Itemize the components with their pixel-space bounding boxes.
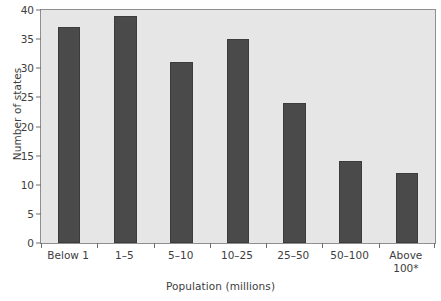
- y-tick-mark: [36, 97, 41, 98]
- x-tick-mark: [266, 243, 267, 248]
- bar: [114, 16, 137, 243]
- bar: [283, 103, 306, 243]
- bar: [396, 173, 419, 243]
- y-tick-mark: [36, 10, 41, 11]
- x-tick-label: 1–5: [115, 249, 134, 262]
- x-tick-label: 50–100: [330, 249, 369, 262]
- x-tick-label: 10–25: [221, 249, 253, 262]
- bar-chart: Number of states 0510152025303540 Below …: [0, 0, 441, 301]
- bar: [58, 27, 81, 243]
- bar: [227, 39, 250, 243]
- y-tick-mark: [36, 126, 41, 127]
- x-tick-mark: [210, 243, 211, 248]
- bar: [170, 62, 193, 243]
- x-tick-label: 25–50: [277, 249, 309, 262]
- x-tick-mark: [154, 243, 155, 248]
- y-tick-mark: [36, 184, 41, 185]
- x-tick-mark: [379, 243, 380, 248]
- plot-area: 0510152025303540: [40, 9, 436, 244]
- bar: [339, 161, 362, 243]
- y-tick-mark: [36, 68, 41, 69]
- x-tick-mark: [322, 243, 323, 248]
- x-tick-label: Below 1: [47, 249, 89, 262]
- x-tick-label: 5–10: [168, 249, 193, 262]
- x-tick-mark: [41, 243, 42, 248]
- x-axis-title: Population (millions): [0, 280, 441, 292]
- x-tick-mark: [434, 243, 435, 248]
- y-tick-mark: [36, 155, 41, 156]
- y-tick-mark: [36, 39, 41, 40]
- x-tick-mark: [97, 243, 98, 248]
- x-tick-label: Above 100*: [389, 249, 422, 274]
- y-tick-mark: [36, 213, 41, 214]
